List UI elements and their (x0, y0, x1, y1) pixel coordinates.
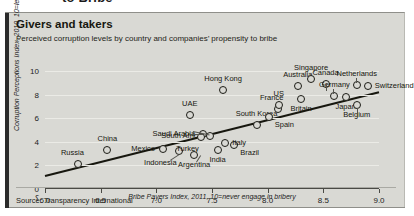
x-tick (212, 189, 213, 193)
point-label: India (209, 156, 225, 165)
y-tick-label: 10 (13, 67, 39, 76)
gridline (45, 142, 379, 143)
plot-area: 02468106.06.57.07.58.08.59.0RussiaChinaM… (45, 71, 379, 189)
data-point[interactable] (186, 111, 194, 119)
y-tick-label: 8 (13, 90, 39, 99)
data-point[interactable] (253, 121, 261, 129)
data-point[interactable] (214, 146, 222, 154)
point-label: UAE (182, 100, 197, 109)
data-point[interactable] (342, 93, 350, 101)
x-tick-label: 7.5 (206, 196, 217, 205)
point-label: Spain (275, 121, 294, 130)
label-leader-line (326, 83, 327, 91)
point-label: China (98, 135, 118, 144)
gridline (45, 118, 379, 119)
y-tick-label: 4 (13, 137, 39, 146)
data-point[interactable] (219, 86, 227, 94)
point-label: Germany (319, 81, 350, 90)
x-tick-label: 7.0 (151, 196, 162, 205)
chart-title: Givers and takers (16, 18, 113, 30)
label-leader-line (356, 78, 357, 83)
point-label: Hong Kong (204, 75, 242, 84)
y-tick-label: 6 (13, 114, 39, 123)
chart-card: Givers and takers Perceived corruption l… (5, 12, 405, 208)
x-tick (323, 189, 324, 193)
cut-off-headline: to Bribe (62, 0, 113, 5)
gridline (45, 165, 379, 166)
point-label: US (274, 90, 284, 99)
data-point[interactable] (190, 151, 198, 159)
source-divider (16, 187, 396, 188)
point-label: Canada (312, 69, 338, 78)
x-tick-label: 8.5 (318, 196, 329, 205)
point-label: Italy (232, 139, 246, 148)
point-label: Brazil (240, 149, 259, 158)
point-label: Switzerland (375, 82, 414, 91)
card-bottom-rule (9, 207, 405, 208)
accent-bar (5, 13, 9, 208)
y-tick-label: 0 (13, 185, 39, 194)
point-label: Russia (61, 149, 84, 158)
point-label: Britain (290, 105, 311, 114)
gridline (45, 95, 379, 96)
x-tick (268, 189, 269, 193)
x-tick (45, 189, 46, 193)
data-point[interactable] (275, 101, 283, 109)
x-tick (379, 189, 380, 193)
x-tick (156, 189, 157, 193)
x-tick-label: 9.0 (373, 196, 384, 205)
x-tick-label: 8.0 (262, 196, 273, 205)
chart-subtitle: Perceived corruption levels by country a… (16, 34, 277, 43)
point-label: Mexico (131, 145, 155, 154)
source-note: Source: Transparency International (16, 196, 133, 205)
label-leader-line (357, 108, 358, 117)
point-label: Argentina (178, 161, 210, 170)
data-point[interactable] (265, 113, 273, 121)
point-label: Indonesia (144, 159, 177, 168)
data-point[interactable] (159, 145, 167, 153)
x-tick (101, 189, 102, 193)
y-tick-label: 2 (13, 161, 39, 170)
